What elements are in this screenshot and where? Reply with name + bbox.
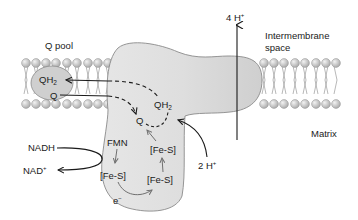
q-site-label: Q (136, 116, 143, 126)
matrix-label: Matrix (311, 129, 337, 139)
lipid-tails-right (262, 66, 337, 94)
lipid-heads-bottom-right (260, 100, 341, 109)
fes-cluster-1-label: [Fe-S] (100, 171, 126, 181)
fes-cluster-2-label: [Fe-S] (147, 175, 173, 185)
lipid-heads-top-right (260, 59, 341, 68)
nad-plus-label: NAD+ (23, 165, 47, 176)
q-release-line (60, 95, 108, 96)
nadh-label: NADH (28, 143, 55, 153)
fes-cluster-3-label: [Fe-S] (150, 145, 176, 155)
lipid-heads-bottom-left (22, 100, 113, 109)
q-pool-label: Q pool (45, 41, 73, 51)
fmn-label: FMN (107, 138, 128, 148)
qh2-pool-label: QH2 (39, 75, 57, 87)
intermembrane-space-line1: Intermembrane (265, 30, 329, 41)
lipid-heads-top-left (22, 59, 113, 68)
intermembrane-space-line2: space (265, 42, 290, 53)
electron-label: e− (113, 195, 122, 206)
nadh-oxidation-arrow (57, 148, 102, 170)
uptake-protons-label: 2 H+ (198, 160, 216, 171)
complex-i-protein (102, 43, 262, 211)
intermembrane-space-label: Intermembrane space (265, 30, 329, 54)
membrane-right (260, 59, 341, 109)
qh2-site-label: QH2 (154, 100, 172, 112)
pumped-protons-label: 4 H+ (226, 12, 244, 23)
q-pool-molecule-label: Q (50, 91, 57, 101)
